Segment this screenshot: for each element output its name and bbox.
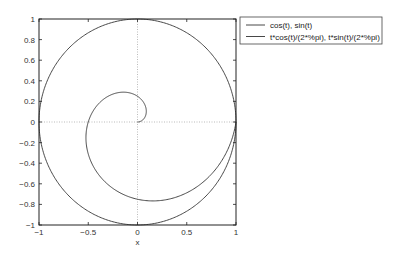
y-tick-label: −0.2 — [19, 139, 35, 148]
x-axis-label: x — [136, 238, 140, 247]
x-tick-label: −0.5 — [80, 228, 96, 237]
chart: −1−0.500.51 −1−0.8−0.6−0.4−0.200.20.40.6… — [0, 0, 394, 257]
legend-label: t*cos(t)/(2*%pi), t*sin(t)/(2*%pi) — [270, 33, 380, 42]
y-tick-label: 1 — [31, 15, 36, 24]
y-tick-label: 0.6 — [24, 56, 36, 65]
legend: cos(t), sin(t)t*cos(t)/(2*%pi), t*sin(t)… — [240, 17, 382, 44]
x-tick-labels: −1−0.500.51 — [34, 228, 238, 237]
y-tick-label: 0.2 — [24, 97, 36, 106]
y-tick-label: −0.8 — [19, 200, 35, 209]
y-tick-label: −1 — [26, 221, 36, 230]
y-tick-label: 0 — [31, 118, 36, 127]
y-tick-label: 0.8 — [24, 36, 36, 45]
legend-label: cos(t), sin(t) — [270, 21, 313, 30]
y-tick-label: −0.6 — [19, 180, 35, 189]
x-tick-label: 0.5 — [181, 228, 193, 237]
x-tick-label: −1 — [34, 228, 44, 237]
series-line-2 — [86, 92, 236, 201]
y-tick-label: 0.4 — [24, 77, 36, 86]
x-tick-label: 0 — [135, 228, 140, 237]
y-tick-labels: −1−0.8−0.6−0.4−0.200.20.40.60.81 — [19, 15, 35, 230]
x-tick-label: 1 — [234, 228, 239, 237]
y-tick-label: −0.4 — [19, 159, 35, 168]
